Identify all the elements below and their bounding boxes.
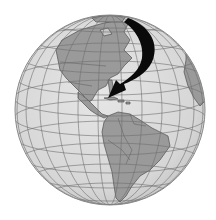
globe-svg <box>0 0 216 220</box>
globe-illustration: Grayscale orthographic globe centered on… <box>0 0 216 220</box>
